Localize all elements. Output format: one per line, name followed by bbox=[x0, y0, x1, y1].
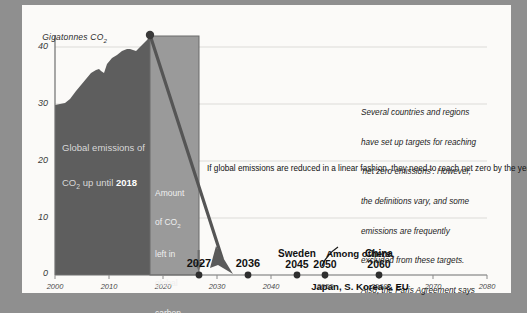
peak-2018-dot bbox=[146, 31, 154, 39]
among-others-year-label: 2050 bbox=[305, 258, 345, 270]
y-tick-40: 40 bbox=[26, 41, 48, 51]
budget-label-line4: global bbox=[155, 279, 195, 289]
china-year-label: 2060 bbox=[359, 258, 399, 270]
y-tick-20: 20 bbox=[26, 155, 48, 165]
budget-area-label: Amount of CO2 left in global carbon budg… bbox=[155, 169, 195, 313]
budget-label-line5: carbon bbox=[155, 309, 195, 313]
among-others-line2: Japan, S. Korea & EU bbox=[285, 281, 435, 292]
dot-2027 bbox=[196, 272, 203, 279]
dot-2036 bbox=[245, 272, 252, 279]
emissions-area-label: Global emissions of CO2 up until 2018 bbox=[62, 119, 145, 215]
y-tick-30: 30 bbox=[26, 98, 48, 108]
x-tick-2030: 2030 bbox=[200, 282, 234, 291]
x-tick-2040: 2040 bbox=[254, 282, 288, 291]
targets-note-l4: the definitions vary, and some bbox=[361, 197, 513, 207]
milestone-2036-label: 2036 bbox=[228, 257, 268, 269]
x-tick-2000: 2000 bbox=[38, 282, 72, 291]
targets-note-l1: Several countries and regions bbox=[361, 108, 513, 118]
infographic-root: Gigatonnes CO2 40 30 20 10 0 2000 2010 2… bbox=[0, 0, 527, 313]
milestone-2027-label: 2027 bbox=[179, 257, 219, 269]
emissions-area-label-line1: Global emissions of bbox=[62, 142, 145, 154]
x-tick-2010: 2010 bbox=[92, 282, 126, 291]
y-tick-10: 10 bbox=[26, 212, 48, 222]
targets-note-l2: have set up targets for reaching bbox=[361, 138, 513, 148]
targets-note-l3: 'net zero emissions'. However, bbox=[361, 167, 513, 177]
budget-label-line2: of CO2 bbox=[155, 218, 195, 230]
linear-reduction-note: If global emissions are reduced in a lin… bbox=[207, 164, 299, 174]
budget-label-line1: Amount bbox=[155, 189, 195, 199]
emissions-area-label-line2: CO2 up until 2018 bbox=[62, 177, 145, 192]
y-tick-0: 0 bbox=[26, 268, 48, 278]
